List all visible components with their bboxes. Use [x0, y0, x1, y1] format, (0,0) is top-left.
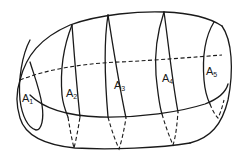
section-line-3-right	[164, 12, 178, 112]
region-label-a3-sub: 3	[121, 85, 125, 92]
section-3-hidden-curve	[162, 112, 178, 145]
section-line-1-right	[72, 25, 80, 117]
region-label-a3: A3	[114, 80, 125, 92]
region-label-a1: A1	[22, 93, 33, 105]
back-rim-dashed-curve	[20, 55, 222, 80]
region-label-a5: A5	[206, 66, 217, 78]
outer-top-edge	[20, 12, 222, 80]
region-label-a2-sub: 2	[73, 93, 77, 100]
a1-cap-curve	[19, 40, 42, 130]
section-line-3-left	[155, 12, 164, 114]
region-label-a5-sub: 5	[213, 71, 217, 78]
section-line-2-left	[105, 15, 108, 117]
section-4-hidden-curve	[210, 100, 224, 118]
section-line-2-right	[108, 15, 126, 118]
region-label-a2: A2	[66, 88, 77, 100]
front-rim-curve	[30, 84, 228, 117]
section-line-1-left	[61, 25, 72, 117]
region-label-a4: A4	[162, 73, 173, 85]
section-1-hidden-curve	[68, 117, 80, 148]
surface-diagram: A1 A2 A3 A4 A5	[0, 0, 234, 166]
region-label-a4-sub: 4	[169, 78, 173, 85]
outer-right-edge	[190, 26, 231, 143]
region-label-a1-sub: 1	[29, 98, 33, 105]
section-2-hidden-curve	[108, 117, 126, 149]
section-line-4-left	[203, 22, 214, 104]
